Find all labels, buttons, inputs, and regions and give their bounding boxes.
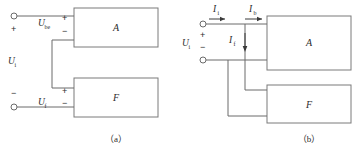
panel-b-block-f-label: F [305, 99, 313, 110]
panel-a-f-minus-sign: − [62, 98, 67, 108]
panel-b: A F I i I b [182, 4, 351, 144]
panel-b-base-current-subscript: b [254, 10, 257, 16]
panel-a-block-a-label: A [112, 22, 120, 33]
panel-a-block-f-label: F [112, 92, 120, 103]
panel-b-base-current-arrow-head [257, 17, 262, 22]
panel-b-shunt-feedback-wire-top [245, 24, 267, 90]
panel-b-input-terminal-negative [200, 57, 206, 63]
panel-b-caption: （b） [298, 134, 321, 144]
panel-a: A F + − U i U be + − [8, 8, 158, 144]
panel-b-input-current-subscript: i [218, 10, 220, 16]
panel-b-feedback-current-subscript: f [234, 41, 236, 47]
figure-canvas: A F + − U i U be + − [0, 0, 353, 153]
panel-b-input-current-label: I [212, 4, 217, 14]
panel-a-input-plus-sign: + [11, 24, 16, 34]
panel-b-block-a-label: A [305, 37, 313, 48]
panel-a-input-voltage-subscript: i [15, 62, 17, 68]
panel-b-base-current-label: I [248, 4, 253, 14]
panel-a-input-terminal-positive [11, 13, 17, 19]
panel-b-feedback-current-label: I [228, 35, 233, 45]
panel-b-input-voltage-subscript: i [189, 44, 191, 50]
panel-a-series-feedback-wire [52, 40, 74, 88]
panel-b-input-plus-sign: + [200, 30, 205, 40]
circuit-figure: A F + − U i U be + − [0, 0, 353, 153]
panel-a-feedback-voltage-subscript: f [45, 103, 47, 109]
panel-b-input-minus-sign: − [200, 42, 205, 52]
panel-b-input-terminal-positive [200, 21, 206, 27]
panel-b-shunt-feedback-wire-bottom [228, 60, 267, 116]
panel-a-be-minus-sign: − [62, 26, 67, 36]
panel-a-input-terminal-negative [11, 104, 17, 110]
panel-b-feedback-current-arrow-head [243, 46, 248, 52]
panel-a-be-plus-sign: + [62, 13, 67, 23]
panel-a-input-minus-sign: − [11, 88, 16, 98]
panel-a-caption: （a） [105, 134, 127, 144]
panel-b-input-current-arrow-head [220, 17, 225, 22]
panel-a-f-plus-sign: + [62, 86, 67, 96]
panel-a-net-input-voltage-subscript: be [45, 24, 51, 30]
